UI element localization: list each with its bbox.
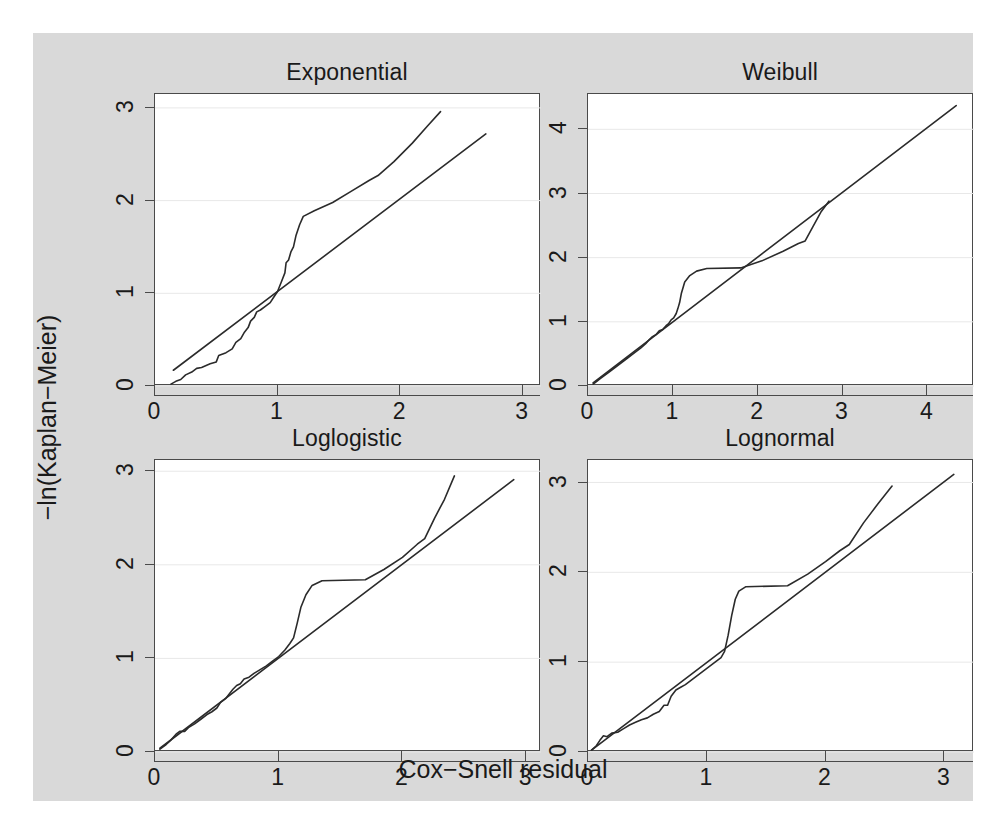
x-tick-label: 3 <box>822 398 862 425</box>
x-tick-mark <box>154 385 155 395</box>
y-tick-label: 4 <box>545 108 572 148</box>
x-axis-line <box>587 395 973 396</box>
y-tick-label: 2 <box>545 236 572 276</box>
x-tick-label: 3 <box>502 398 542 425</box>
y-tick-label: 1 <box>112 272 139 312</box>
figure-root: Exponential01230123Weibull0123401234Logl… <box>0 0 1006 833</box>
y-tick-mark <box>145 385 154 386</box>
x-tick-mark <box>926 385 927 395</box>
x-tick-label: 0 <box>134 398 174 425</box>
y-axis-title: −ln(Kaplan−Meier) <box>33 168 62 668</box>
y-tick-label: 1 <box>545 641 572 681</box>
x-axis-line <box>154 395 540 396</box>
y-tick-mark <box>145 470 154 471</box>
y-tick-label: 1 <box>112 637 139 677</box>
y-tick-mark <box>578 482 587 483</box>
y-tick-mark <box>578 751 587 752</box>
y-tick-mark <box>145 107 154 108</box>
x-tick-label: 2 <box>379 398 419 425</box>
y-tick-mark <box>578 385 587 386</box>
panel-weibull: Weibull0123401234 <box>543 59 973 425</box>
panel-exponential: Exponential01230123 <box>110 59 540 425</box>
plot-frame <box>587 459 973 751</box>
plot-frame <box>154 459 540 751</box>
y-tick-label: 3 <box>112 86 139 126</box>
x-tick-mark <box>672 385 673 395</box>
y-tick-mark <box>145 564 154 565</box>
panel-loglogistic: Loglogistic01230123 <box>110 425 540 791</box>
y-tick-mark <box>145 751 154 752</box>
y-tick-label: 3 <box>112 450 139 490</box>
y-tick-label: 2 <box>545 551 572 591</box>
x-tick-mark <box>522 385 523 395</box>
panel-title: Loglogistic <box>154 425 540 452</box>
x-tick-label: 1 <box>257 398 297 425</box>
x-tick-label: 1 <box>652 398 692 425</box>
plot-frame <box>587 93 973 385</box>
y-tick-mark <box>578 321 587 322</box>
panel-lognormal: Lognormal01230123 <box>543 425 973 791</box>
y-tick-mark <box>578 571 587 572</box>
x-tick-mark <box>587 385 588 395</box>
y-tick-label: 2 <box>112 179 139 219</box>
y-tick-mark <box>145 200 154 201</box>
y-tick-mark <box>578 193 587 194</box>
y-tick-mark <box>578 128 587 129</box>
x-tick-mark <box>842 385 843 395</box>
y-tick-label: 3 <box>545 172 572 212</box>
panel-title: Exponential <box>154 59 540 86</box>
x-tick-label: 4 <box>906 398 946 425</box>
figure-plate: Exponential01230123Weibull0123401234Logl… <box>33 33 973 801</box>
x-axis-title: Cox−Snell residual <box>33 755 973 784</box>
y-tick-mark <box>578 257 587 258</box>
y-tick-label: 3 <box>545 461 572 501</box>
y-tick-label: 1 <box>545 300 572 340</box>
x-tick-mark <box>277 385 278 395</box>
x-tick-mark <box>399 385 400 395</box>
y-tick-mark <box>145 657 154 658</box>
x-tick-mark <box>757 385 758 395</box>
x-tick-label: 0 <box>567 398 607 425</box>
panel-title: Lognormal <box>587 425 973 452</box>
y-tick-label: 2 <box>112 543 139 583</box>
y-tick-mark <box>145 292 154 293</box>
y-tick-mark <box>578 661 587 662</box>
plot-frame <box>154 93 540 385</box>
panel-title: Weibull <box>587 59 973 86</box>
x-tick-label: 2 <box>737 398 777 425</box>
